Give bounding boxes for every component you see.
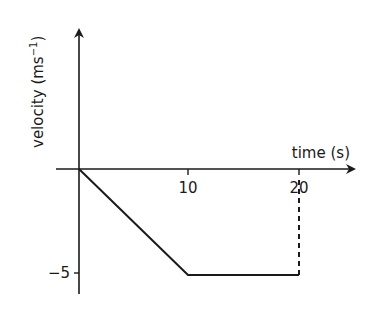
chart-canvas: 10 20 −5 time (s) velocity (ms−1) bbox=[0, 0, 372, 309]
y-tick-label-neg5: −5 bbox=[48, 264, 70, 282]
y-axis-label-main: velocity (ms bbox=[29, 56, 47, 148]
y-axis-label-sup: −1 bbox=[28, 42, 39, 57]
svg-text:velocity (ms−1): velocity (ms−1) bbox=[28, 36, 47, 148]
x-tick-label-20: 20 bbox=[289, 179, 308, 197]
y-axis-label-close: ) bbox=[29, 36, 47, 42]
x-axis-label: time (s) bbox=[292, 144, 350, 162]
x-tick-label-10: 10 bbox=[178, 179, 197, 197]
y-axis-label: velocity (ms−1) bbox=[28, 36, 47, 148]
velocity-time-graph: 10 20 −5 time (s) velocity (ms−1) bbox=[0, 0, 372, 309]
